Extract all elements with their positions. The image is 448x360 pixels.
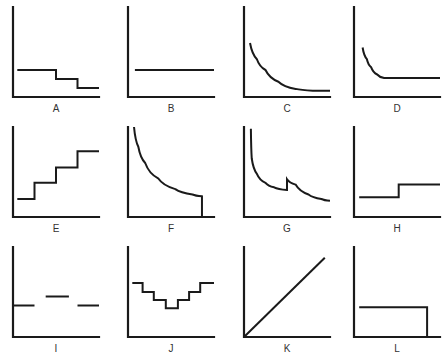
series-line: [132, 283, 214, 308]
series-line: [244, 258, 325, 337]
axes: [244, 127, 330, 217]
panel-j: J: [128, 247, 214, 354]
panel-k: K: [244, 247, 330, 354]
panel-label: H: [393, 223, 400, 234]
axes: [354, 127, 440, 217]
panel-e: E: [13, 127, 99, 234]
panel-label: J: [169, 343, 174, 354]
panel-label: L: [394, 343, 400, 354]
panel-label: A: [53, 103, 60, 114]
series-line: [250, 43, 330, 91]
series-line: [363, 48, 440, 79]
series-line: [359, 185, 440, 198]
panel-label: E: [53, 223, 60, 234]
series-line: [359, 307, 427, 337]
panel-label: D: [393, 103, 400, 114]
panel-b: B: [128, 7, 214, 114]
panel-i: I: [13, 247, 99, 354]
panel-d: D: [354, 7, 440, 114]
series-line: [17, 151, 99, 199]
axes: [13, 7, 99, 97]
panel-l: L: [354, 247, 440, 354]
axes: [244, 7, 330, 97]
axes: [128, 7, 214, 97]
panel-a: A: [13, 7, 99, 114]
axes: [354, 7, 440, 97]
panel-g: G: [244, 127, 330, 234]
figure-canvas: ABCDEFGHIJKL: [0, 0, 448, 360]
series-line: [17, 70, 99, 88]
panel-label: I: [55, 343, 58, 354]
panel-c: C: [244, 7, 330, 114]
panel-f: F: [128, 127, 214, 234]
series-line: [134, 127, 202, 217]
panel-label: B: [168, 103, 175, 114]
panel-label: K: [284, 343, 291, 354]
panel-label: G: [283, 223, 291, 234]
panel-label: C: [283, 103, 290, 114]
axes: [13, 247, 99, 337]
panel-h: H: [354, 127, 440, 234]
panel-label: F: [168, 223, 174, 234]
series-line: [251, 129, 330, 201]
